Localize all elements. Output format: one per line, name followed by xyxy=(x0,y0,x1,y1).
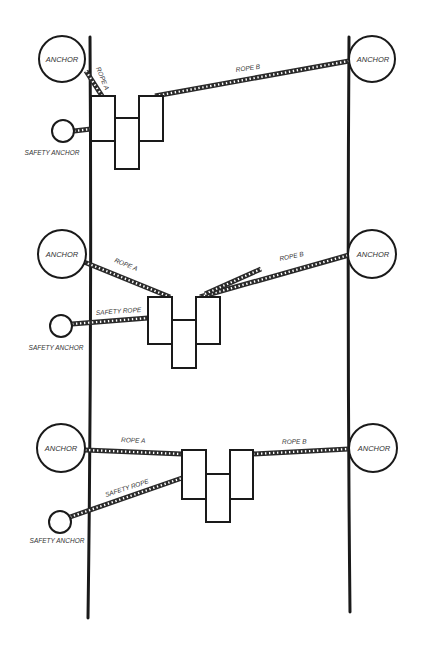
load-block-right xyxy=(196,297,220,344)
rope-anchoring-diagram: ANCHOR ANCHOR SAFETY ANCHOR ROPE A ROPE … xyxy=(0,0,422,652)
safety-rope xyxy=(72,318,148,324)
right-anchor-label: ANCHOR xyxy=(356,250,390,259)
load-block-right xyxy=(139,96,163,141)
left-anchor-label: ANCHOR xyxy=(44,444,78,453)
rope-a-label: ROPE A xyxy=(121,436,146,444)
right-anchor-label: ANCHOR xyxy=(357,444,391,453)
load-block-middle xyxy=(115,118,139,169)
rope-b-label: ROPE B xyxy=(235,63,261,73)
rope-b xyxy=(253,449,349,454)
safety-anchor-label: SAFETY ANCHOR xyxy=(25,149,80,156)
load-block-middle xyxy=(206,474,230,522)
load-block-left xyxy=(148,297,172,344)
right-anchor-label: ANCHOR xyxy=(356,55,390,64)
rope-a-label: ROPE A xyxy=(114,256,139,272)
load-block-left xyxy=(91,96,115,141)
rope-b xyxy=(200,255,349,297)
rope-b-label: ROPE B xyxy=(282,438,307,445)
load-block-left xyxy=(182,450,206,499)
safety-anchor-label: SAFETY ANCHOR xyxy=(29,344,84,351)
panel-1: ANCHOR ANCHOR SAFETY ANCHOR ROPE A ROPE … xyxy=(25,36,395,169)
load-block-right xyxy=(230,450,253,499)
right-wall-line xyxy=(348,37,350,612)
left-anchor-label: ANCHOR xyxy=(45,250,79,259)
rope-a xyxy=(85,450,182,454)
safety-anchor xyxy=(52,120,74,142)
load-block-middle xyxy=(172,320,196,368)
safety-rope-label: SAFETY ROPE xyxy=(96,306,142,316)
safety-rope xyxy=(74,129,91,131)
left-anchor-label: ANCHOR xyxy=(45,55,79,64)
safety-anchor xyxy=(50,315,72,337)
panel-2: ANCHOR ANCHOR SAFETY ANCHOR ROPE A ROPE … xyxy=(29,230,396,368)
safety-anchor-label: SAFETY ANCHOR xyxy=(30,537,85,544)
safety-anchor xyxy=(49,511,71,533)
panel-3: ANCHOR ANCHOR SAFETY ANCHOR ROPE A ROPE … xyxy=(30,424,397,544)
rope-b-label: ROPE B xyxy=(279,250,305,262)
